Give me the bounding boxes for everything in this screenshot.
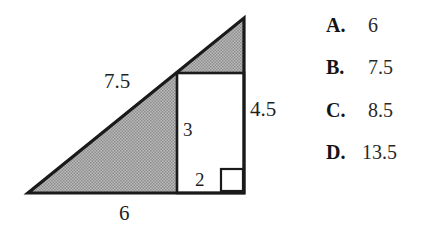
choice-value-a: 6 xyxy=(360,14,378,37)
choice-letter-b: B. xyxy=(326,56,360,79)
choice-letter-d: D. xyxy=(326,141,360,164)
answer-choices-list: A. 6 B. 7.5 C. 8.5 D. 13.5 xyxy=(326,0,442,227)
choice-letter-a: A. xyxy=(326,14,360,37)
choice-letter-c: C. xyxy=(326,99,360,122)
geometry-diagram: 7.5 4.5 6 3 2 xyxy=(0,0,300,227)
geometry-figure-panel: 7.5 4.5 6 3 2 xyxy=(0,0,300,227)
answer-choice-a[interactable]: A. 6 xyxy=(326,14,442,44)
label-base: 6 xyxy=(119,201,130,225)
choice-value-c: 8.5 xyxy=(360,99,393,122)
label-rect-width: 2 xyxy=(195,169,205,190)
label-hypotenuse: 7.5 xyxy=(104,69,130,93)
choice-value-b: 7.5 xyxy=(360,56,393,79)
answer-choice-b[interactable]: B. 7.5 xyxy=(326,56,442,86)
choice-value-d: 13.5 xyxy=(360,141,397,164)
label-right-side: 4.5 xyxy=(250,97,276,121)
answer-choice-c[interactable]: C. 8.5 xyxy=(326,99,442,129)
label-rect-height: 3 xyxy=(183,119,193,140)
answer-choice-d[interactable]: D. 13.5 xyxy=(326,141,442,171)
